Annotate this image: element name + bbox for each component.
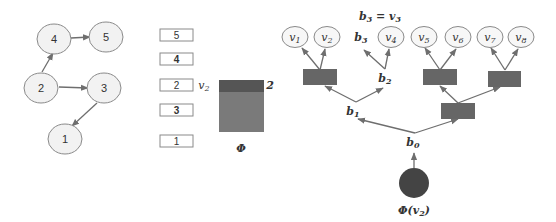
graph-node-5: 5 (89, 22, 123, 52)
edge-rect4-v7 (491, 48, 505, 70)
svg-text:2: 2 (174, 80, 180, 91)
graph-node-4: 4 (37, 24, 71, 54)
edge-b0-b1 (358, 119, 415, 133)
svg-text:3: 3 (174, 105, 180, 116)
graph-node-2: 2 (24, 73, 58, 103)
svg-text:b3: b3 (354, 31, 368, 46)
stack-item-1: 1 (160, 135, 193, 147)
graph-node-1: 1 (48, 124, 82, 154)
graph-node-label: 4 (51, 33, 57, 45)
edge-b2-b3 (364, 50, 385, 69)
annotation-b3-eq-v3: b3 = v3 (359, 10, 402, 25)
stack-item-5: 5 (160, 29, 193, 41)
leaf-v4: v4 (378, 27, 404, 48)
root-node (399, 168, 429, 198)
diagram-canvas: 4 5 2 3 1 5 4 2 (0, 0, 556, 222)
stack-item-4: 4 (160, 53, 193, 65)
leaf-v8: v8 (508, 27, 534, 48)
svg-text:1: 1 (174, 136, 180, 147)
edge-rect4-v8 (505, 49, 518, 70)
matrix-highlight-row (219, 80, 264, 92)
graph-node-label: 2 (38, 82, 44, 94)
branch-label-b2: b2 (378, 72, 392, 87)
edge-b1-b2 (356, 88, 383, 102)
embedding-matrix: v2 2 Φ (198, 79, 274, 155)
graph: 4 5 2 3 1 (24, 22, 123, 154)
edge-rect5-rect4 (458, 87, 500, 103)
matrix-label-phi: Φ (236, 142, 246, 155)
edge-2-4 (42, 53, 53, 72)
graph-node-label: 5 (103, 31, 109, 43)
inner-node-3 (423, 69, 457, 85)
edge-b1-rect1 (325, 86, 356, 102)
edge-3-1 (72, 103, 97, 126)
svg-text:5: 5 (174, 30, 180, 41)
edge-rect3-v5 (425, 48, 440, 70)
stack: 5 4 2 3 1 (160, 29, 193, 147)
root-label-phi-v2: Φ(v2) (398, 204, 430, 219)
inner-node-5 (441, 103, 475, 119)
edge-rect5-rect3 (440, 86, 458, 103)
leaf-v6: v6 (445, 27, 471, 48)
branch-label-b1: b1 (346, 105, 359, 120)
row-label-v2: v2 (198, 79, 209, 93)
edge-rect3-v6 (440, 49, 456, 70)
graph-node-3: 3 (87, 73, 121, 103)
inner-node-1 (303, 69, 337, 85)
edge-2-3 (59, 87, 88, 88)
leaf-v5: v5 (411, 27, 437, 48)
edge-4-5 (71, 37, 90, 38)
svg-text:4: 4 (174, 54, 180, 65)
tree: b3 = v3 v1 v2 b3 v4 (282, 10, 534, 219)
edge-rect1-v1 (302, 48, 320, 70)
leaf-v1: v1 (282, 27, 308, 48)
edge-b2-v4 (385, 49, 389, 69)
branch-label-b0: b0 (406, 136, 420, 151)
edge-b0-rect5 (415, 119, 458, 133)
leaf-b3: b3 (354, 31, 368, 46)
stack-item-3: 3 (160, 104, 193, 116)
row-index: 2 (265, 79, 274, 92)
graph-node-label: 1 (62, 133, 68, 145)
inner-node-4 (488, 71, 521, 87)
graph-node-label: 3 (101, 82, 107, 94)
leaf-v7: v7 (477, 27, 503, 48)
leaf-v2: v2 (314, 27, 340, 48)
edge-rect1-v2 (320, 49, 325, 70)
stack-item-2: 2 (160, 79, 193, 91)
